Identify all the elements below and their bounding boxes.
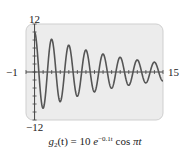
caption-func-arg: (t) = 10 bbox=[57, 135, 93, 147]
function-caption: g2(t) = 10 e−0.1t cos πt bbox=[0, 135, 190, 149]
y-min-label: −12 bbox=[26, 122, 43, 133]
x-min-label: −1 bbox=[6, 67, 18, 78]
y-max-label: 12 bbox=[29, 14, 40, 25]
caption-exponent: −0.1t bbox=[98, 135, 113, 143]
x-max-label: 15 bbox=[168, 67, 179, 78]
caption-trig-arg: πt bbox=[133, 135, 142, 147]
caption-trig: cos bbox=[113, 135, 133, 147]
